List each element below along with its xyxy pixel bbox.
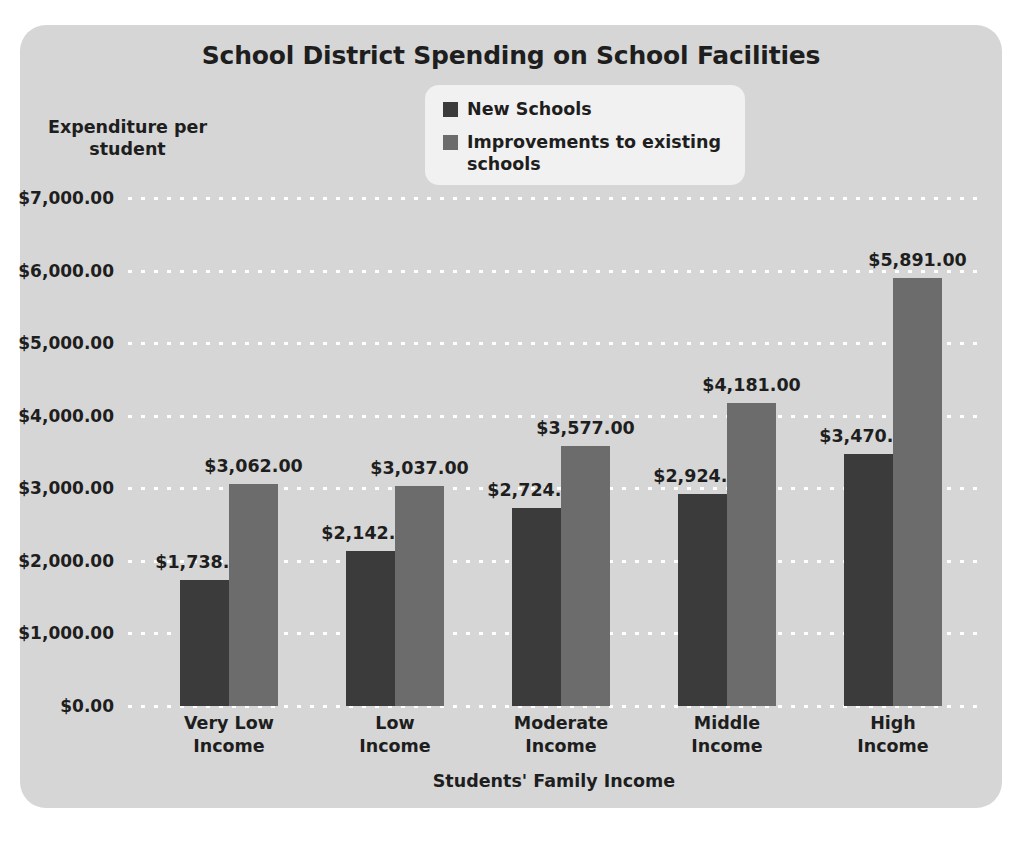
y-tick-label: $3,000.00 [0, 478, 114, 498]
bar-value-label: $3,062.00 [204, 456, 303, 476]
gridline [128, 270, 980, 273]
category-label-line: Income [144, 735, 314, 758]
y-tick-label: $6,000.00 [0, 261, 114, 281]
bar-improvements [395, 486, 444, 706]
bar-improvements [893, 278, 942, 706]
category-label: MiddleIncome [642, 712, 812, 758]
y-tick-label: $2,000.00 [0, 551, 114, 571]
category-label: LowIncome [310, 712, 480, 758]
y-tick-label: $4,000.00 [0, 406, 114, 426]
x-axis-title: Students' Family Income [128, 771, 980, 791]
gridline [128, 197, 980, 200]
category-label-line: Moderate [476, 712, 646, 735]
category-label-line: Middle [642, 712, 812, 735]
gridline [128, 415, 980, 418]
y-tick-label: $5,000.00 [0, 333, 114, 353]
bar-improvements [727, 403, 776, 706]
category-label: HighIncome [808, 712, 978, 758]
gridline [128, 342, 980, 345]
category-label-line: Low [310, 712, 480, 735]
category-label-line: Income [310, 735, 480, 758]
category-label: ModerateIncome [476, 712, 646, 758]
bar-new-schools [844, 454, 893, 706]
category-label-line: High [808, 712, 978, 735]
chart-panel: School District Spending on School Facil… [20, 25, 1002, 808]
category-label-line: Very Low [144, 712, 314, 735]
bar-new-schools [346, 551, 395, 706]
category-label-line: Income [808, 735, 978, 758]
y-tick-label: $1,000.00 [0, 623, 114, 643]
bar-improvements [561, 446, 610, 706]
bar-new-schools [180, 580, 229, 706]
bar-value-label: $3,577.00 [536, 418, 635, 438]
y-tick-label: $7,000.00 [0, 188, 114, 208]
bar-improvements [229, 484, 278, 706]
category-label-line: Income [642, 735, 812, 758]
category-label: Very LowIncome [144, 712, 314, 758]
y-tick-label: $0.00 [0, 696, 114, 716]
bar-value-label: $5,891.00 [868, 250, 967, 270]
bar-new-schools [678, 494, 727, 706]
bar-value-label: $3,037.00 [370, 458, 469, 478]
plot-area: $0.00$1,000.00$2,000.00$3,000.00$4,000.0… [20, 25, 1002, 808]
category-label-line: Income [476, 735, 646, 758]
bar-value-label: $4,181.00 [702, 375, 801, 395]
bar-new-schools [512, 508, 561, 706]
